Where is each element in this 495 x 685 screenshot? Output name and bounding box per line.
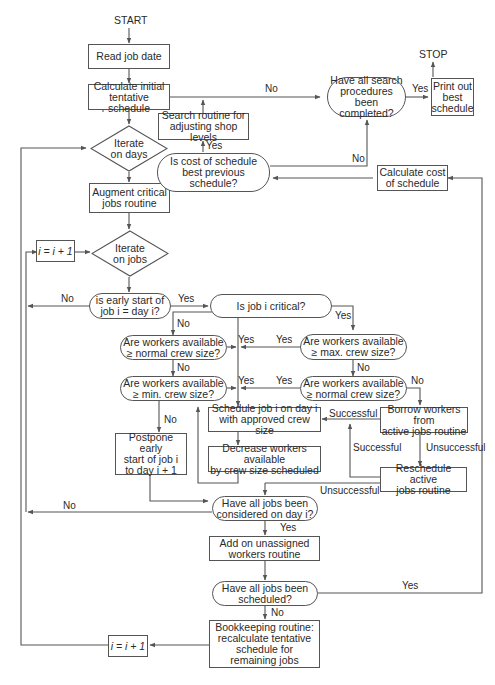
edge-label-cost-yes: Yes	[206, 140, 222, 151]
i-increment-top-box: i = i + 1	[36, 240, 75, 262]
edge-label-min-yes: Yes	[238, 375, 254, 386]
schedule-job-box: Schedule job i on day i with approved cr…	[208, 407, 321, 432]
flowchart-canvas: START STOP Read job date Calculate initi…	[0, 0, 495, 685]
calculate-initial-schedule-box: Calculate initial tentative schedule	[88, 84, 170, 110]
edge-label-normal-left-yes: Yes	[238, 334, 254, 345]
iterate-on-days-decision: Iterate on days	[90, 125, 168, 172]
edge-label-normal-left-no: No	[177, 362, 190, 373]
all-jobs-scheduled-decision: Have all jobs been scheduled?	[212, 581, 318, 606]
edge-label-scheduled-no: No	[271, 607, 284, 618]
bookkeeping-routine-box: Bookkeeping routine: recalculate tentati…	[209, 620, 320, 668]
workers-normal-crew-left-decision: Are workers available ≥ normal crew size…	[120, 335, 227, 360]
search-completed-decision: Have all search procedures been complete…	[327, 77, 406, 117]
edge-label-considered-no: No	[63, 500, 76, 511]
edge-label-early-no: No	[61, 293, 74, 304]
edge-label-completed-yes: Yes	[412, 83, 428, 94]
iterate-on-jobs-label: Iterate on jobs	[91, 230, 169, 277]
edge-label-reschedule-unsuccessful: Unsuccessful	[320, 485, 379, 496]
all-jobs-considered-decision: Have all jobs been considered on day i?	[212, 496, 318, 521]
workers-min-crew-decision: Are workers available ≥ min. crew size?	[120, 376, 227, 401]
iterate-on-jobs-decision: Iterate on jobs	[91, 230, 169, 277]
edge-label-cost-no: No	[352, 153, 365, 164]
workers-normal-crew-right-decision: Are workers available ≥ normal crew size…	[300, 376, 407, 401]
i-increment-bottom-box: i = i + 1	[108, 635, 148, 657]
calculate-cost-box: Calculate cost of schedule	[377, 165, 448, 191]
edge-label-critical-yes: Yes	[335, 310, 351, 321]
start-terminal: START	[114, 14, 147, 26]
search-routine-box: Search routine for adjusting shop levels	[158, 113, 249, 140]
edge-label-search-no: No	[265, 83, 278, 94]
edge-label-min-no: No	[164, 414, 177, 425]
edge-label-normal-right-no: No	[411, 375, 424, 386]
add-unassigned-workers-box: Add on unassigned workers routine	[209, 536, 320, 561]
cost-best-decision: Is cost of schedule best previous schedu…	[157, 153, 270, 192]
read-job-date-box: Read job date	[88, 44, 170, 69]
edge-label-max-no: No	[357, 362, 370, 373]
edge-label-considered-yes: Yes	[280, 522, 296, 533]
figure-caption	[18, 673, 328, 679]
workers-max-crew-decision: Are workers available ≥ max. crew size?	[300, 334, 407, 360]
early-start-decision: is early start of job i = day i?	[89, 293, 171, 319]
stop-terminal: STOP	[419, 48, 447, 60]
reschedule-active-jobs-box: Reschedule active jobs routine	[380, 467, 467, 492]
edge-label-early-yes: Yes	[178, 293, 194, 304]
iterate-on-days-label: Iterate on days	[90, 125, 168, 172]
edge-label-borrow-unsuccessful: Unsuccessful	[426, 442, 485, 453]
edge-label-borrow-successful: Successful	[329, 408, 377, 419]
print-best-schedule-box: Print out best schedule	[431, 78, 474, 116]
edge-label-normal-right-yes: Yes	[276, 375, 292, 386]
edge-label-early-down-no: No	[177, 318, 190, 329]
edge-label-max-yes: Yes	[276, 334, 292, 345]
borrow-workers-box: Borrow workers from active jobs routine	[380, 407, 468, 433]
is-job-critical-decision: Is job i critical?	[210, 294, 332, 318]
decrease-workers-box: Decrease workers available by crew size …	[208, 446, 321, 472]
augment-critical-jobs-box: Augment critical jobs routine	[89, 183, 170, 213]
edge-label-reschedule-successful: Successful	[353, 442, 401, 453]
edge-label-scheduled-yes: Yes	[402, 580, 418, 591]
postpone-early-start-box: Postpone early start of job i to day i +…	[115, 433, 187, 475]
